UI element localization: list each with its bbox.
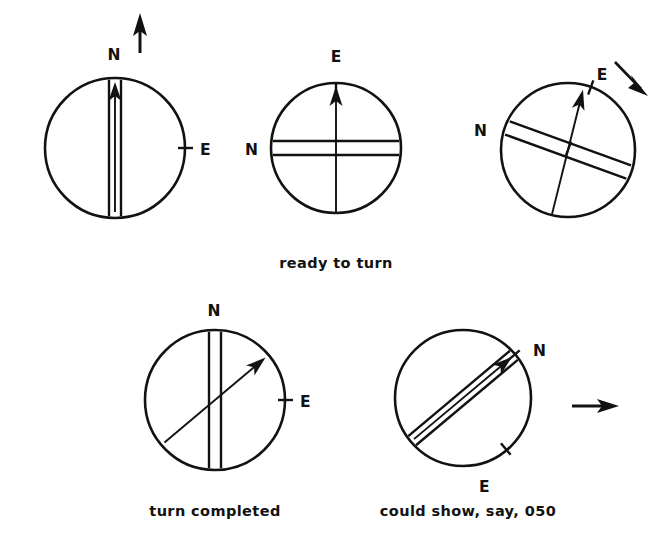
label-north: N [108,46,121,64]
label-north: N [208,302,221,320]
caption-turn-completed: turn completed [149,503,280,519]
external-arrow-right-icon [572,399,619,413]
compass-3: N E [474,62,648,217]
label-north: N [474,122,487,140]
caption-ready-to-turn: ready to turn [279,255,393,271]
compass-sequence-diagram: N E E N [0,0,672,539]
external-arrow-turn-icon [615,62,648,96]
label-east: E [597,66,608,84]
compass-1: N E [45,13,211,218]
label-east: E [331,48,342,66]
external-arrow-up-icon [133,13,147,53]
compass-2: E N [245,48,401,213]
label-north: N [533,342,546,360]
label-east: E [300,393,311,411]
compass-5: N E [395,330,619,496]
label-east: E [200,141,211,159]
compass-4: N E [145,302,311,470]
caption-could-show: could show, say, 050 [380,503,556,519]
label-east: E [479,478,490,496]
label-north: N [245,141,258,159]
figure-canvas: N E E N [0,0,672,539]
